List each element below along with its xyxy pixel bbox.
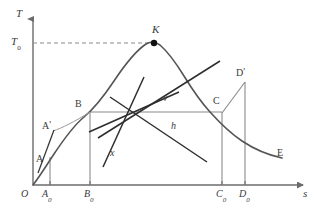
construction-line-v [98, 61, 220, 138]
axis-tick-label-A0: A0 [42, 189, 52, 202]
point-label-D-prime: D' [236, 68, 245, 78]
axis-group [33, 19, 303, 185]
axis-tick-label-B0: B0 [84, 189, 94, 202]
point-label-A: A [36, 154, 43, 164]
triangle-D-prime [222, 82, 245, 185]
figure-container: T s T0 O A0 B0 C0 D0 K B C D' A' A E v h… [0, 0, 317, 212]
tangent-arc-Aprime-B [53, 112, 90, 131]
axis-tick-label-D0-subscript: 0 [246, 196, 250, 204]
point-label-D-prime-mark: ' [243, 66, 245, 77]
y-axis-label: T [16, 8, 22, 19]
axis-tick-label-C0-subscript: 0 [223, 196, 227, 204]
axis-tick-label-C0-base: C [216, 188, 223, 199]
line-label-h: h [171, 121, 176, 131]
axis-tick-label-D0: D0 [239, 189, 250, 202]
axis-tick-label-O-base: O [21, 188, 28, 199]
point-label-C: C [213, 96, 220, 106]
line-label-x: x [110, 148, 114, 158]
axis-tick-label-O: O [21, 189, 28, 199]
point-label-A-prime: A' [42, 121, 51, 131]
point-label-B: B [75, 99, 82, 109]
line-label-v: v [163, 93, 167, 103]
triangle-hypotenuse [222, 82, 245, 113]
axis-tick-label-A0-subscript: 0 [48, 196, 52, 204]
point-label-A-prime-mark: ' [49, 119, 51, 130]
point-label-K: K [152, 24, 159, 35]
y-tick-label-T0-subscript: 0 [17, 44, 21, 52]
point-K-marker [151, 40, 157, 46]
construction-line-h [110, 97, 207, 162]
y-tick-label-T0: T0 [11, 36, 21, 50]
axis-tick-label-C0: C0 [216, 189, 226, 202]
point-label-E: E [277, 148, 283, 158]
x-axis-label: s [303, 188, 307, 199]
axis-tick-label-B0-subscript: 0 [90, 196, 94, 204]
